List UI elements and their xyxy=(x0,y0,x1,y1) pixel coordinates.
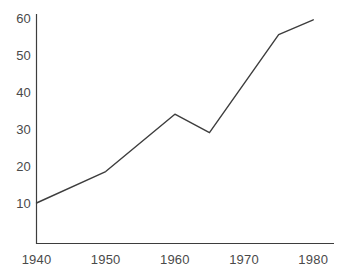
y-tick-label-50: 50 xyxy=(16,48,31,63)
x-tick-label-1940: 1940 xyxy=(22,252,52,267)
y-tick-label-40: 40 xyxy=(16,85,31,100)
line-chart: Line chart rising from 10 in 1940 to abo… xyxy=(0,0,356,276)
x-tick-label-1970: 1970 xyxy=(229,252,259,267)
x-tick-label-1980: 1980 xyxy=(298,252,328,267)
chart-plot-area xyxy=(0,0,356,276)
data-series-group xyxy=(37,20,314,203)
x-tick-label-1960: 1960 xyxy=(160,252,190,267)
x-tick-label-1950: 1950 xyxy=(91,252,121,267)
axes-group xyxy=(36,14,334,244)
y-tick-label-60: 60 xyxy=(16,11,31,26)
y-tick-label-10: 10 xyxy=(16,196,31,211)
data-line-series-1 xyxy=(37,20,314,203)
y-tick-label-30: 30 xyxy=(16,122,31,137)
y-tick-label-20: 20 xyxy=(16,159,31,174)
